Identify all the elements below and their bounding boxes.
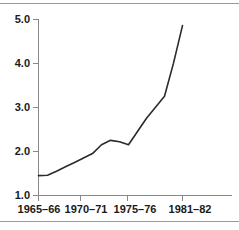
x-tick-label: 1981–82 [169,203,212,215]
chart-svg: 5.0 4.0 3.0 2.0 1.0 1965–66 1970–71 1975… [0,0,239,230]
y-tick-label: 3.0 [15,101,30,113]
x-axis-tick-labels: 1965–66 1970–71 1975–76 1981–82 [18,203,212,215]
x-tick-label: 1975–76 [114,203,157,215]
x-tick-label: 1970–71 [65,203,108,215]
y-axis-tick-labels: 5.0 4.0 3.0 2.0 1.0 [15,13,30,201]
figure-container: 5.0 4.0 3.0 2.0 1.0 1965–66 1970–71 1975… [0,0,239,230]
data-series-line [39,26,183,176]
y-tick-label: 4.0 [15,57,30,69]
y-axis-ticks [33,20,39,196]
x-axis-ticks [39,196,183,202]
y-tick-label: 2.0 [15,145,30,157]
y-tick-label: 1.0 [15,189,30,201]
y-tick-label: 5.0 [15,13,30,25]
x-tick-label: 1965–66 [18,203,61,215]
line-chart: 5.0 4.0 3.0 2.0 1.0 1965–66 1970–71 1975… [0,0,239,230]
